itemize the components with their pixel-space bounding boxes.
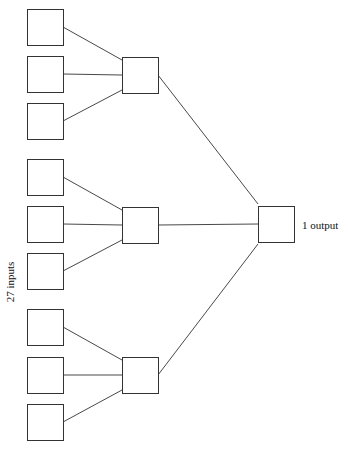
input-hidden-edge bbox=[63, 27, 122, 60]
input-node bbox=[28, 405, 64, 441]
input-node bbox=[28, 10, 64, 46]
input-hidden-edge bbox=[63, 327, 122, 360]
hidden-output-edge bbox=[158, 224, 258, 225]
output-node bbox=[259, 207, 295, 243]
input-node bbox=[28, 160, 64, 196]
hidden-node bbox=[123, 208, 159, 244]
input-node bbox=[28, 104, 64, 140]
input-node bbox=[28, 358, 64, 394]
input-hidden-edge bbox=[63, 240, 122, 271]
input-node bbox=[28, 310, 64, 346]
input-hidden-edge bbox=[63, 390, 122, 422]
input-hidden-edge bbox=[63, 177, 122, 210]
input-node bbox=[28, 254, 64, 290]
network-diagram: 1 output 27 inputs bbox=[0, 0, 348, 452]
input-hidden-edge bbox=[63, 74, 122, 75]
input-label: 27 inputs bbox=[4, 262, 16, 303]
hidden-node bbox=[123, 358, 159, 394]
input-node bbox=[28, 57, 64, 93]
input-node bbox=[28, 207, 64, 243]
hidden-output-edge bbox=[158, 75, 258, 204]
hidden-output-edge bbox=[158, 244, 258, 375]
hidden-node bbox=[123, 58, 159, 94]
input-hidden-edge bbox=[63, 224, 122, 225]
input-hidden-edge bbox=[63, 90, 122, 121]
output-label: 1 output bbox=[302, 219, 338, 231]
